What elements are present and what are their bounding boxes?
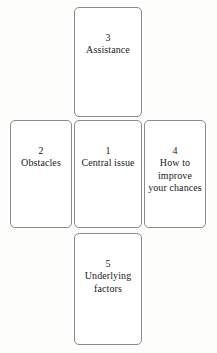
card-number: 1	[105, 145, 110, 157]
card-position-4: 4 How to improve your chances	[144, 120, 206, 228]
card-position-3: 3 Assistance	[74, 7, 142, 117]
card-label: How to improve your chances	[145, 157, 205, 195]
card-label: Assistance	[83, 44, 133, 57]
card-position-2: 2 Obstacles	[10, 120, 72, 228]
card-label: Underlying factors	[75, 270, 141, 295]
tarot-spread-diagram: 3 Assistance 2 Obstacles 1 Central issue…	[0, 0, 217, 353]
card-position-5: 5 Underlying factors	[74, 233, 142, 345]
card-position-1: 1 Central issue	[74, 120, 142, 228]
card-label: Central issue	[78, 157, 137, 170]
card-label: Obstacles	[18, 157, 64, 170]
card-number: 4	[172, 145, 177, 157]
card-number: 5	[105, 258, 110, 270]
card-number: 2	[38, 145, 43, 157]
card-number: 3	[105, 32, 110, 44]
